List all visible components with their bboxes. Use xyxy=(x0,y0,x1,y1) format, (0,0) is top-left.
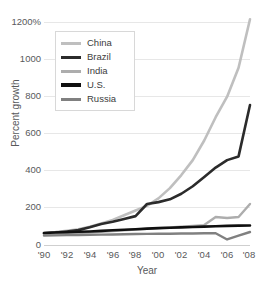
x-axis-tick-labels: '90 '92 '94 '96 '98 '00 '02 '04 '06 '08 xyxy=(44,250,250,264)
legend-label-russia: Russia xyxy=(87,94,116,104)
legend-label-brazil: Brazil xyxy=(87,52,111,62)
x-axis-title: Year xyxy=(44,266,250,276)
y-tick-400: 400 xyxy=(1,165,41,175)
legend-label-us: U.S. xyxy=(87,80,105,90)
legend-item-china[interactable]: China xyxy=(56,36,134,50)
legend-swatch-china xyxy=(61,42,81,45)
legend-item-us[interactable]: U.S. xyxy=(56,78,134,92)
y-tick-1000: 1000 xyxy=(1,54,41,64)
legend-item-brazil[interactable]: Brazil xyxy=(56,50,134,64)
legend-item-india[interactable]: India xyxy=(56,64,134,78)
y-tick-1200: 1200% xyxy=(1,17,41,27)
legend-item-russia[interactable]: Russia xyxy=(56,92,134,106)
chart-container: · · 1200% 1000 800 600 400 200 0 Percent… xyxy=(0,0,256,289)
series-line-brazil xyxy=(44,105,250,233)
legend-label-china: China xyxy=(87,38,112,48)
legend-label-india: India xyxy=(87,66,108,76)
legend-swatch-us xyxy=(61,83,81,86)
y-tick-200: 200 xyxy=(1,202,41,212)
y-tick-0: 0 xyxy=(1,240,41,250)
y-tick-800: 800 xyxy=(1,91,41,101)
legend-swatch-brazil xyxy=(61,56,81,59)
cropped-title-sliver: · · xyxy=(0,0,256,7)
x-tick-08: '08 xyxy=(236,250,256,260)
legend-swatch-india xyxy=(61,70,81,73)
y-axis-title: Percent growth xyxy=(11,53,21,173)
y-tick-600: 600 xyxy=(1,128,41,138)
chart-legend: China Brazil India U.S. Russia xyxy=(55,31,135,111)
legend-swatch-russia xyxy=(61,98,81,101)
